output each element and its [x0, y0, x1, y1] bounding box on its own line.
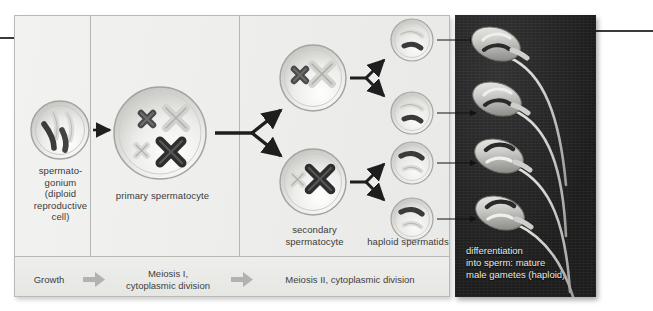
column-divider-1: [90, 16, 91, 296]
stage-label-meiosis-2: Meiosis II, cytoplasmic division: [255, 274, 445, 286]
primary-spermatocyte-label: primary spermatocyte: [100, 190, 225, 202]
figure-canvas: differentiation into sperm: mature male …: [0, 0, 653, 311]
spermatogonium-label: spermato- gonium (diploid reproductive c…: [8, 165, 113, 223]
haploid-spermatids-label: haploid spermatids: [358, 236, 458, 248]
mature-sperm-photo-panel: differentiation into sperm: mature male …: [455, 15, 596, 297]
differentiation-caption: differentiation into sperm: mature male …: [466, 245, 565, 281]
column-divider-2: [239, 16, 240, 296]
secondary-spermatocyte-label: secondary spermatocyte: [262, 224, 367, 247]
right-edge-rule: [596, 30, 653, 32]
stage-label-meiosis-1: Meiosis I, cytoplasmic division: [108, 268, 228, 291]
meiosis-stages-panel: [14, 15, 450, 297]
stage-label-growth: Growth: [20, 274, 78, 286]
